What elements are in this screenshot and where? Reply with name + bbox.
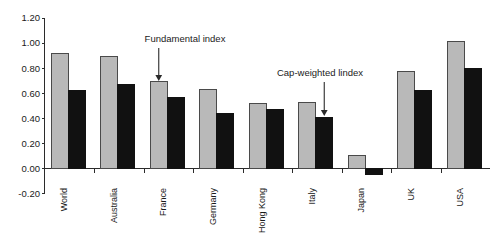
category-label-uk: UK	[406, 188, 416, 201]
bar-fundamental-italy	[299, 102, 316, 168]
annotation-arrow-head-fundamental-index	[155, 75, 162, 81]
y-tick-label: 1.20	[22, 12, 41, 23]
bar-fundamental-world	[51, 53, 68, 168]
bar-chart: 1.201.000.800.600.400.200.00-0.20 WorldA…	[0, 0, 496, 251]
x-axis-tick-marks	[95, 169, 442, 173]
bar-cap-weighted-hong-kong	[266, 110, 283, 169]
category-label-world: World	[59, 188, 69, 211]
y-tick-label: 0.00	[22, 163, 41, 174]
bar-cap-weighted-australia	[118, 84, 135, 168]
y-tick-label: 0.60	[22, 88, 41, 99]
category-label-usa: USA	[455, 188, 465, 207]
category-label-france: France	[158, 188, 168, 216]
category-label-italy: Italy	[307, 188, 317, 205]
annotation-label-fundamental-index: Fundamental index	[145, 33, 226, 44]
bar-fundamental-france	[150, 82, 167, 169]
bar-fundamental-usa	[447, 42, 464, 169]
category-label-hong-kong: Hong Kong	[257, 188, 267, 233]
y-tick-label: 0.80	[22, 63, 41, 74]
y-tick-label: 0.20	[22, 138, 41, 149]
annotation-arrow-head-cap-weighted-index	[321, 110, 328, 116]
y-tick-label: 1.00	[22, 37, 41, 48]
bar-cap-weighted-world	[68, 91, 85, 169]
bar-fundamental-germany	[200, 89, 217, 168]
bars-layer	[51, 42, 481, 175]
category-label-japan: Japan	[356, 188, 366, 213]
bar-cap-weighted-italy	[316, 117, 333, 168]
annotation-label-cap-weighted-index: Cap-weighted lindex	[277, 67, 363, 78]
bar-fundamental-australia	[101, 57, 118, 169]
bar-cap-weighted-usa	[464, 68, 481, 168]
bar-cap-weighted-france	[167, 97, 184, 168]
bar-fundamental-hong-kong	[249, 103, 266, 168]
category-labels: WorldAustraliaFranceGermanyHong KongItal…	[59, 188, 465, 234]
category-label-australia: Australia	[109, 188, 119, 223]
y-axis-tick-labels: 1.201.000.800.600.400.200.00-0.20	[18, 12, 40, 199]
y-tick-label: 0.40	[22, 113, 41, 124]
chart-svg: 1.201.000.800.600.400.200.00-0.20 WorldA…	[0, 0, 496, 251]
category-label-germany: Germany	[208, 188, 218, 226]
bar-fundamental-japan	[348, 156, 365, 169]
bar-fundamental-uk	[398, 72, 415, 169]
y-tick-label: -0.20	[18, 188, 40, 199]
bar-cap-weighted-uk	[415, 91, 432, 169]
bar-cap-weighted-japan	[365, 169, 382, 175]
bar-cap-weighted-germany	[217, 113, 234, 168]
